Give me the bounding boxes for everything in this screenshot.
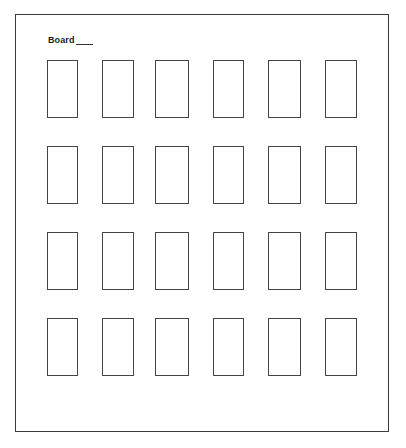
slot-r3-c4 [213,232,244,290]
slot-r4-c3 [155,318,189,376]
slot-r1-c2 [102,60,134,118]
slot-r3-c6 [325,232,357,290]
slot-r1-c6 [325,60,357,118]
slot-r2-c4 [213,146,244,204]
slot-r2-c3 [155,146,189,204]
slot-r1-c5 [268,60,301,118]
slot-r1-c1 [47,60,78,118]
slot-r3-c2 [102,232,134,290]
slot-r2-c5 [268,146,301,204]
slot-r4-c1 [47,318,78,376]
slot-r3-c5 [268,232,301,290]
board-number-blank[interactable] [76,44,93,45]
slot-r1-c4 [213,60,244,118]
slot-r2-c6 [325,146,357,204]
slot-r2-c2 [102,146,134,204]
slot-r4-c5 [268,318,301,376]
board-label: Board [48,35,75,45]
slot-r4-c2 [102,318,134,376]
slot-r4-c4 [213,318,244,376]
slot-r3-c1 [47,232,78,290]
slot-r2-c1 [47,146,78,204]
slot-r4-c6 [325,318,357,376]
slot-r1-c3 [155,60,189,118]
slot-r3-c3 [155,232,189,290]
